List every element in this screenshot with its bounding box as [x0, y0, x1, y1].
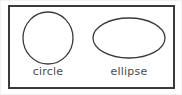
ellipse-shape-label: ellipse — [93, 66, 165, 78]
circle-shape-label: circle — [23, 66, 73, 78]
figure-panel: circle ellipse — [0, 0, 182, 95]
